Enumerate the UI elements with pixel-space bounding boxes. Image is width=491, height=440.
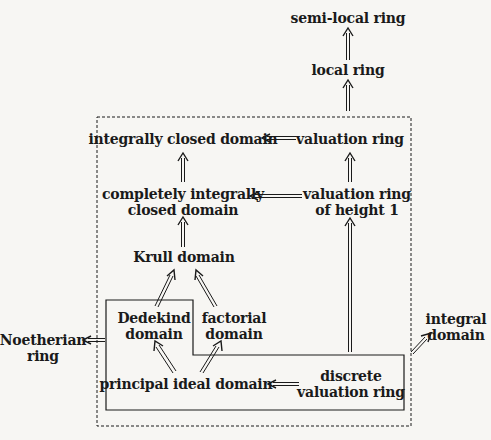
arrow-valuation-to-local <box>343 80 353 111</box>
node-principal-ideal-domain: principal ideal domain <box>100 376 273 392</box>
arrow-factorial-to-krull <box>195 270 217 307</box>
node-completely-integrally-closed-domain: completely integrally closed domain <box>102 186 264 218</box>
arrow-dvr-to-pid <box>268 380 299 388</box>
node-discrete-valuation-ring: discrete valuation ring <box>297 368 405 400</box>
arrow-dvr-to-vrh1 <box>345 218 355 352</box>
node-integral-domain: integral domain <box>426 311 487 343</box>
arrow-dedekind-to-krull <box>155 270 175 307</box>
diagram-lines <box>0 0 491 440</box>
node-factorial-domain: factorial domain <box>202 310 267 342</box>
node-integrally-closed-domain: integrally closed domain <box>88 131 277 147</box>
node-dedekind-domain: Dedekind domain <box>117 310 190 342</box>
node-semi-local-ring: semi-local ring <box>291 10 406 26</box>
arrow-vrh1-to-valuation <box>345 153 355 182</box>
ring-hierarchy-diagram: semi-local ring local ring integrally cl… <box>0 0 491 440</box>
node-local-ring: local ring <box>311 62 384 78</box>
arrow-krull-to-cic <box>178 217 188 247</box>
node-noetherian-ring: Noetherian ring <box>0 332 86 364</box>
node-valuation-ring: valuation ring <box>296 131 404 147</box>
arrow-pid-to-dedekind <box>154 341 176 373</box>
node-valuation-ring-height-1: valuation ring of height 1 <box>303 186 411 218</box>
arrow-local-to-semilocal <box>343 28 353 60</box>
arrow-cic-to-integrally-closed <box>178 153 188 182</box>
node-krull-domain: Krull domain <box>133 249 234 265</box>
arrow-pid-to-factorial <box>200 341 222 373</box>
